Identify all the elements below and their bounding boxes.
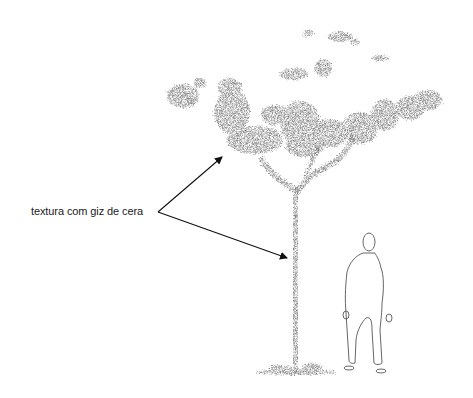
illustration-canvas: textura com giz de cera: [0, 0, 473, 398]
tree-trunk: [294, 192, 297, 370]
figure-head: [363, 233, 375, 251]
tree-illustration: [0, 0, 473, 398]
figure-right-foot: [376, 369, 386, 373]
annotation-label: textura com giz de cera: [31, 205, 143, 217]
arrow-to-trunk: [158, 212, 287, 258]
human-figure-outline: [343, 233, 392, 373]
tree-canopy: [167, 29, 442, 157]
arrow-to-canopy: [158, 157, 222, 212]
figure-left-foot: [344, 366, 354, 370]
figure-body: [345, 253, 383, 365]
figure-right-hand: [386, 314, 392, 322]
